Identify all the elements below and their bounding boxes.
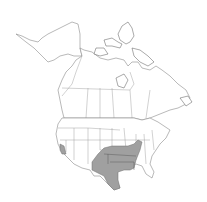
alaska: [16, 22, 82, 62]
ellesmere-island: [118, 22, 134, 44]
victoria-island: [94, 48, 108, 56]
range-map: [0, 0, 207, 202]
arctic-islands: [104, 38, 122, 48]
